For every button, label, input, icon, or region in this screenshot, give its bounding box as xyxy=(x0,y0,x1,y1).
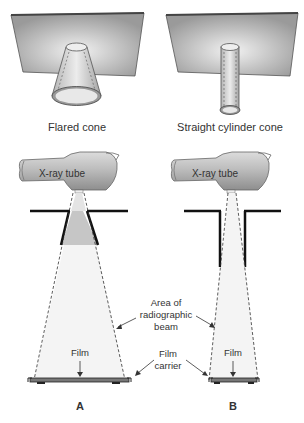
film-label-b: Film xyxy=(224,347,242,358)
film-carrier-b xyxy=(209,378,259,384)
carrier-label-line1: Film xyxy=(159,348,177,359)
film-carrier-a xyxy=(28,378,131,384)
beam-label-line2: radiographic xyxy=(140,309,193,320)
beam-label-line3: beam xyxy=(154,321,178,332)
panel-label-a: A xyxy=(76,400,84,412)
straight-cylinder-illustration xyxy=(166,13,298,115)
xray-tube-label-a: X-ray tube xyxy=(39,168,86,179)
beam-annotation: Area of radiographic beam xyxy=(116,297,215,332)
carrier-label-line2: carrier xyxy=(155,360,182,371)
flared-cone-caption: Flared cone xyxy=(48,121,106,133)
carrier-annotation: Film carrier xyxy=(135,348,208,376)
xray-tube-label-b: X-ray tube xyxy=(192,168,239,179)
film-label-a: Film xyxy=(71,347,89,358)
diagram-canvas: Flared cone Straight cylinder cone X-ray… xyxy=(0,0,304,423)
beam-area-a xyxy=(34,245,125,380)
straight-cylinder-caption: Straight cylinder cone xyxy=(177,121,283,133)
beam-label-line1: Area of xyxy=(151,297,182,308)
panel-label-b: B xyxy=(229,400,237,412)
flared-cone-illustration xyxy=(11,13,144,106)
cone-diagram: Flared cone Straight cylinder cone X-ray… xyxy=(0,0,304,423)
